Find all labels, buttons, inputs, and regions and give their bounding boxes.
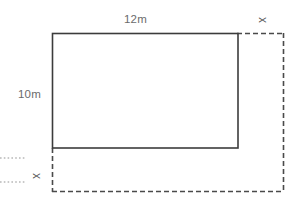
x-variable-label-top: x [256,14,268,26]
dashed-rectangle [52,33,284,192]
height-dimension-label: 10m [18,89,41,101]
solid-rectangle [53,34,239,149]
x-variable-label-left: x [30,170,42,182]
diagram-canvas [0,0,298,202]
width-dimension-label: 12m [124,14,147,26]
geometry-diagram: 12m 10m x x [0,0,298,202]
